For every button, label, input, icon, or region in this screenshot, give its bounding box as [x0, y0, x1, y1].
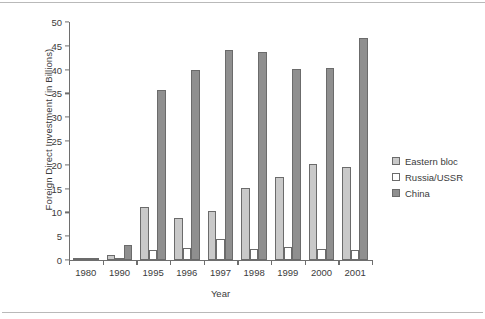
bar-eastern-bloc-1996 — [174, 218, 183, 260]
legend-swatch-icon — [392, 173, 400, 181]
x-axis-tick-mark — [237, 260, 238, 265]
chart-legend: Eastern blocRussia/USSRChina — [392, 154, 463, 202]
bar-group — [241, 22, 267, 260]
bar-group — [342, 22, 368, 260]
x-axis-tick-label: 2000 — [311, 267, 332, 278]
x-axis-tick-mark — [204, 260, 205, 265]
bar-china-1996 — [191, 70, 200, 260]
bar-group — [174, 22, 200, 260]
y-axis-tick-label: 45 — [27, 40, 69, 51]
bar-group — [309, 22, 335, 260]
bar-russia-ussr-2001 — [351, 250, 360, 260]
legend-item-russia-ussr[interactable]: Russia/USSR — [392, 170, 463, 184]
x-axis-tick-label: 1995 — [143, 267, 164, 278]
bar-china-2000 — [326, 68, 335, 260]
bar-china-1998 — [258, 52, 267, 260]
legend-swatch-icon — [392, 157, 400, 165]
x-axis-tick-mark — [103, 260, 104, 265]
y-axis-line — [69, 22, 70, 260]
bar-russia-ussr-1995 — [149, 250, 158, 260]
y-axis-tick-label: 40 — [27, 64, 69, 75]
y-axis-tick-label: 10 — [27, 207, 69, 218]
y-axis-tick-mark — [65, 117, 69, 118]
y-axis-tick-label: 15 — [27, 183, 69, 194]
x-axis-tick-mark — [305, 260, 306, 265]
bar-eastern-bloc-1999 — [275, 177, 284, 260]
bar-eastern-bloc-1980 — [73, 258, 82, 260]
x-axis-tick-label: 1997 — [210, 267, 231, 278]
y-axis-tick-mark — [65, 164, 69, 165]
y-axis-tick-mark — [65, 93, 69, 94]
x-axis-tick-mark — [372, 260, 373, 265]
bar-eastern-bloc-1998 — [241, 188, 250, 260]
bar-group — [208, 22, 234, 260]
bar-group — [140, 22, 166, 260]
y-axis-tick-mark — [65, 69, 69, 70]
x-axis-title: Year — [69, 288, 372, 299]
bar-russia-ussr-1999 — [284, 247, 293, 260]
bar-china-1990 — [124, 245, 133, 260]
bar-eastern-bloc-1997 — [208, 211, 217, 260]
bar-china-2001 — [359, 38, 368, 260]
bar-russia-ussr-2000 — [317, 249, 326, 260]
x-axis-tick-label: 1990 — [109, 267, 130, 278]
y-axis-tick-label: 50 — [27, 17, 69, 28]
y-axis-tick-mark — [65, 45, 69, 46]
bar-russia-ussr-1996 — [183, 248, 192, 260]
bar-eastern-bloc-2001 — [342, 167, 351, 260]
bar-russia-ussr-1997 — [216, 239, 225, 260]
bar-russia-ussr-1980 — [82, 258, 91, 260]
x-axis-tick-mark — [136, 260, 137, 265]
x-axis-tick-label: 1998 — [244, 267, 265, 278]
x-axis-tick-label: 1996 — [176, 267, 197, 278]
x-axis-tick-mark — [170, 260, 171, 265]
x-axis-line — [69, 260, 372, 261]
bar-russia-ussr-1998 — [250, 249, 259, 260]
bar-china-1997 — [225, 50, 234, 260]
y-axis-tick-mark — [65, 212, 69, 213]
y-axis-tick-label: 30 — [27, 112, 69, 123]
legend-swatch-icon — [392, 189, 400, 197]
plot-area: 0510152025303540455019801990199519961997… — [69, 22, 372, 260]
y-axis-tick-mark — [65, 21, 69, 22]
x-axis-tick-mark — [69, 260, 70, 265]
page-edge-top — [0, 2, 485, 3]
y-axis-tick-mark — [65, 140, 69, 141]
legend-item-eastern-bloc[interactable]: Eastern bloc — [392, 154, 463, 168]
bar-eastern-bloc-1995 — [140, 207, 149, 260]
bar-group — [73, 22, 99, 260]
x-axis-tick-label: 2001 — [345, 267, 366, 278]
x-axis-tick-label: 1999 — [277, 267, 298, 278]
legend-item-china[interactable]: China — [392, 186, 463, 200]
bar-china-1999 — [292, 69, 301, 260]
bar-russia-ussr-1990 — [115, 258, 124, 260]
legend-label: Russia/USSR — [405, 172, 463, 183]
x-axis-tick-label: 1980 — [75, 267, 96, 278]
bar-eastern-bloc-2000 — [309, 164, 318, 260]
chart-figure: Foreign Direct Investment (in Billions) … — [0, 0, 485, 319]
y-axis-tick-label: 20 — [27, 159, 69, 170]
page-edge-bottom — [2, 312, 483, 313]
x-axis-tick-mark — [338, 260, 339, 265]
legend-label: China — [405, 188, 430, 199]
y-axis-tick-label: 0 — [27, 255, 69, 266]
legend-label: Eastern bloc — [405, 156, 458, 167]
y-axis-tick-mark — [65, 236, 69, 237]
bar-group — [275, 22, 301, 260]
x-axis-tick-mark — [271, 260, 272, 265]
y-axis-tick-label: 5 — [27, 231, 69, 242]
bar-china-1995 — [157, 90, 166, 260]
y-axis-tick-label: 25 — [27, 136, 69, 147]
bar-group — [107, 22, 133, 260]
bar-eastern-bloc-1990 — [107, 255, 116, 260]
y-axis-tick-label: 35 — [27, 88, 69, 99]
bar-china-1980 — [90, 258, 99, 260]
y-axis-tick-mark — [65, 188, 69, 189]
